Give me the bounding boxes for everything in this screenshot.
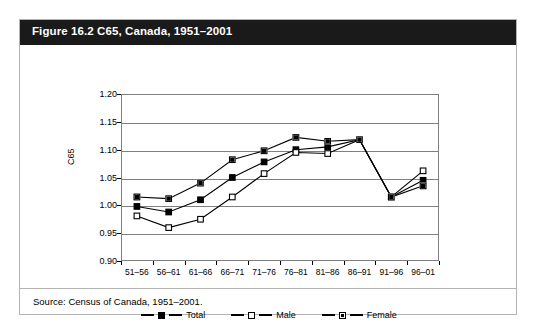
figure-header-bar: Figure 16.2 C65, Canada, 1951–2001 <box>20 20 516 45</box>
y-axis-tick-label: 1.00 <box>99 200 117 210</box>
chart-legend: TotalMaleFemale <box>20 307 518 323</box>
data-point <box>261 148 267 154</box>
legend-marker-icon <box>248 312 255 319</box>
data-point <box>166 196 172 202</box>
data-point <box>166 209 172 215</box>
x-axis-tick-label: 71–76 <box>252 267 276 277</box>
data-point <box>166 225 172 231</box>
y-axis-tick-label: 1.15 <box>99 117 117 127</box>
y-axis-tick-mark <box>117 178 121 179</box>
x-axis-tick-mark <box>121 261 122 265</box>
legend-line-icon <box>169 314 182 316</box>
legend-line-icon <box>350 314 363 316</box>
data-point <box>134 204 140 210</box>
x-axis-tick-label: 86–91 <box>348 267 372 277</box>
data-point <box>198 180 204 186</box>
x-axis-tick-mark <box>153 261 154 265</box>
data-point <box>325 151 331 157</box>
y-axis-title: C65 <box>66 148 76 165</box>
y-axis-tick-mark <box>117 233 121 234</box>
data-point <box>357 137 363 143</box>
y-axis-tick-label: 1.05 <box>99 173 117 183</box>
x-axis-tick-mark <box>185 261 186 265</box>
data-point <box>293 135 299 141</box>
legend-label: Total <box>186 310 205 320</box>
figure-container: Figure 16.2 C65, Canada, 1951–2001 C65 1… <box>19 19 517 315</box>
data-point <box>230 194 236 200</box>
x-axis-tick-mark <box>248 261 249 265</box>
series-female <box>134 135 426 202</box>
series-total <box>134 137 426 215</box>
source-divider <box>20 288 516 289</box>
x-axis-tick-label: 81–86 <box>316 267 340 277</box>
x-axis-tick-label: 76–81 <box>284 267 308 277</box>
y-axis-tick-mark <box>117 94 121 95</box>
y-axis-tick-mark <box>117 261 121 262</box>
x-axis-tick-label: 91–96 <box>379 267 403 277</box>
y-axis-tick-labels: 1.201.151.101.051.000.950.90 <box>83 94 117 261</box>
x-axis-tick-mark <box>344 261 345 265</box>
data-point <box>293 150 299 156</box>
figure-title: Figure 16.2 C65, Canada, 1951–2001 <box>32 25 232 37</box>
data-point <box>420 177 426 183</box>
y-axis-tick-mark <box>117 122 121 123</box>
y-axis-tick-mark <box>117 205 121 206</box>
legend-marker-icon <box>158 312 165 319</box>
legend-label: Female <box>367 310 397 320</box>
x-axis-tick-mark <box>280 261 281 265</box>
legend-item-total[interactable]: Total <box>141 310 205 320</box>
x-axis-tick-label: 61–66 <box>189 267 213 277</box>
x-axis-tick-label: 56–61 <box>157 267 181 277</box>
y-axis-tick-label: 0.90 <box>99 256 117 266</box>
data-point <box>420 168 426 174</box>
legend-item-male[interactable]: Male <box>231 310 296 320</box>
x-axis-tick-mark <box>439 261 440 265</box>
legend-line-icon <box>141 314 154 316</box>
x-axis-tick-mark <box>312 261 313 265</box>
data-point <box>325 139 331 145</box>
y-axis-tick-label: 1.20 <box>99 89 117 99</box>
data-point <box>230 157 236 163</box>
data-point <box>420 183 426 189</box>
data-point <box>261 159 267 165</box>
figure-body: C65 1.201.151.101.051.000.950.90 51–5656… <box>20 45 516 316</box>
x-axis-tick-mark <box>216 261 217 265</box>
x-axis-tick-label: 96–01 <box>411 267 435 277</box>
legend-item-female[interactable]: Female <box>322 310 397 320</box>
legend-line-icon <box>259 314 272 316</box>
data-series-layer <box>121 94 439 261</box>
series-male <box>134 137 426 231</box>
data-point <box>230 175 236 181</box>
source-note: Source: Census of Canada, 1951–2001. <box>33 296 203 307</box>
legend-marker-icon <box>339 312 346 319</box>
data-point <box>134 213 140 219</box>
data-point <box>198 197 204 203</box>
data-point <box>198 216 204 222</box>
legend-line-icon <box>231 314 244 316</box>
x-axis-tick-label: 51–56 <box>125 267 149 277</box>
data-point <box>134 194 140 200</box>
data-point <box>261 171 267 177</box>
y-axis-tick-mark <box>117 150 121 151</box>
y-axis-tick-label: 0.95 <box>99 228 117 238</box>
x-axis-tick-label: 66–71 <box>220 267 244 277</box>
data-point <box>325 144 331 150</box>
series-line <box>137 137 423 198</box>
series-line <box>137 140 423 228</box>
y-axis-tick-label: 1.10 <box>99 145 117 155</box>
data-point <box>389 194 395 200</box>
x-axis-tick-mark <box>375 261 376 265</box>
chart-area: C65 1.201.151.101.051.000.950.90 51–5656… <box>20 45 518 288</box>
x-axis-tick-mark <box>407 261 408 265</box>
legend-label: Male <box>276 310 296 320</box>
legend-line-icon <box>322 314 335 316</box>
